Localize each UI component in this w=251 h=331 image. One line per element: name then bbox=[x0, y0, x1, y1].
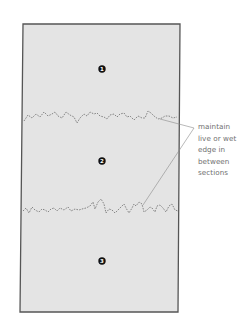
annotation-line-3: edge in bbox=[198, 144, 250, 156]
annotation-line-1: maintain bbox=[198, 121, 250, 133]
section-marker-2: 2 bbox=[98, 157, 105, 164]
svg-text:2: 2 bbox=[100, 158, 104, 164]
section-marker-3: 3 bbox=[98, 257, 105, 264]
annotation-label: maintain live or wet edge in between sec… bbox=[198, 121, 250, 179]
svg-text:3: 3 bbox=[100, 258, 104, 264]
annotation-line-2: live or wet bbox=[198, 133, 250, 145]
svg-text:1: 1 bbox=[100, 66, 104, 72]
section-marker-1: 1 bbox=[98, 65, 105, 72]
annotation-line-4: between bbox=[198, 156, 250, 168]
annotation-line-5: sections bbox=[198, 167, 250, 179]
